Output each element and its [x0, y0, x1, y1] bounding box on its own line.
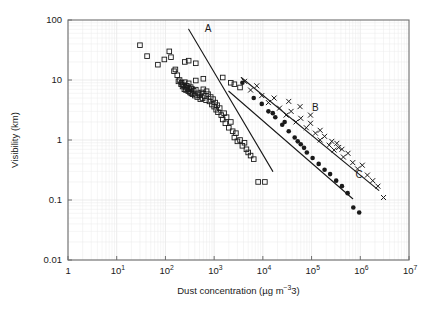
x-tick-label: 101 [111, 264, 126, 276]
x-label-tail: 3) [291, 285, 299, 296]
curve-label-B: B [312, 102, 319, 113]
x-tick-label: 105 [306, 264, 321, 276]
marker-circle [266, 109, 271, 114]
marker-circle [345, 191, 350, 196]
marker-circle [282, 120, 287, 125]
marker-circle [292, 135, 297, 140]
y-axis-label: Visibility (km) [9, 112, 20, 168]
y-tick-label: 1 [57, 134, 62, 145]
x-tick-exponent: 6 [365, 264, 369, 271]
marker-circle [334, 178, 339, 183]
marker-circle [286, 129, 291, 134]
x-tick-label: 103 [208, 264, 223, 276]
marker-circle [251, 96, 256, 101]
marker-circle [271, 111, 276, 116]
x-tick-labels: 1101102103104105106107 [66, 264, 418, 276]
y-tick-label: 100 [46, 14, 62, 25]
marker-circle [328, 172, 333, 177]
marker-circle [295, 139, 300, 144]
x-tick-exponent: 3 [219, 264, 223, 271]
x-tick-exponent: 4 [267, 264, 271, 271]
curve-label-A: A [205, 23, 212, 34]
x-tick-label: 106 [354, 264, 369, 276]
marker-circle [240, 80, 245, 85]
marker-circle [316, 162, 321, 167]
marker-circle [302, 146, 307, 151]
marker-circle [305, 150, 310, 155]
scatter-plot: 11011021031041051061071001010.10.01Dust … [0, 0, 429, 313]
marker-circle [310, 156, 315, 161]
marker-circle [340, 184, 345, 189]
x-tick-label: 1 [66, 265, 71, 276]
y-tick-label: 0.1 [49, 194, 62, 205]
y-tick-label: 0.01 [44, 254, 63, 265]
curve-label-C: C [356, 169, 363, 180]
marker-circle [273, 115, 278, 120]
x-tick-label: 102 [159, 264, 174, 276]
y-tick-labels: 1001010.10.01 [44, 14, 63, 265]
x-tick-label: 104 [257, 264, 272, 276]
marker-circle [259, 102, 264, 107]
x-tick-label: 107 [403, 264, 418, 276]
y-tick-label: 10 [51, 74, 62, 85]
x-tick-exponent: 1 [121, 264, 125, 271]
x-tick-exponent: 7 [414, 264, 418, 271]
marker-circle [357, 210, 362, 215]
marker-circle [351, 205, 356, 210]
x-tick-exponent: 2 [170, 264, 174, 271]
figure-container: 11011021031041051061071001010.10.01Dust … [0, 0, 429, 313]
marker-circle [322, 167, 327, 172]
x-tick-exponent: 5 [316, 264, 320, 271]
x-axis-label: Dust concentration (µg m−33) [177, 284, 300, 296]
